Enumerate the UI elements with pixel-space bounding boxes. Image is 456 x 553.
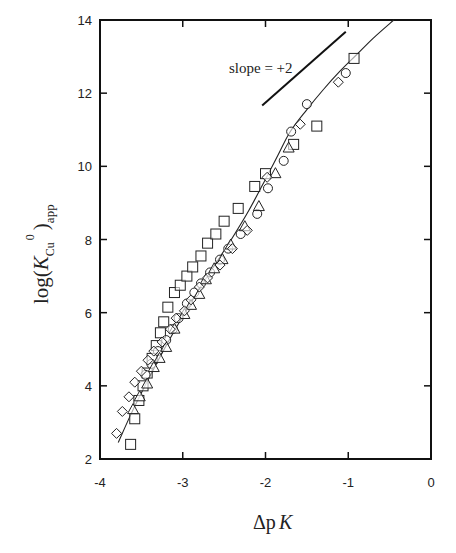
slope-annotation: slope = +2	[229, 60, 293, 76]
x-tick-label: -1	[342, 475, 354, 490]
circle-marker	[263, 184, 272, 193]
plot-border	[100, 20, 431, 459]
x-tick-label: -3	[177, 475, 189, 490]
chart-canvas: -4-3-2-102468101214 slope = +2 ΔpK log(K…	[0, 0, 456, 553]
y-axis-sub: Cu	[43, 242, 57, 256]
square-marker	[159, 317, 169, 327]
diamond-marker	[117, 406, 127, 416]
x-tick-label: 0	[427, 475, 434, 490]
y-tick-label: 2	[85, 452, 92, 467]
triangle-marker	[253, 201, 264, 211]
svg-text:ΔpK: ΔpK	[253, 511, 294, 534]
circle-marker	[287, 127, 296, 136]
circle-marker	[302, 100, 311, 109]
diamond-marker	[112, 428, 122, 438]
x-axis-title-k: K	[278, 511, 294, 533]
plot-frame	[100, 20, 431, 459]
square-marker	[126, 439, 136, 449]
y-axis-log: log(	[29, 270, 53, 304]
y-tick-label: 6	[85, 306, 92, 321]
axis-ticks	[100, 20, 431, 459]
y-tick-label: 14	[78, 13, 92, 28]
square-marker	[349, 53, 359, 63]
square-marker	[182, 271, 192, 281]
fit-curve	[118, 20, 394, 443]
square-marker	[188, 262, 198, 272]
square-marker	[250, 181, 260, 191]
svg-text:log(KCu0)app: log(KCu0)app	[23, 204, 57, 304]
y-tick-label: 12	[78, 86, 92, 101]
x-axis-title: ΔpK	[253, 511, 294, 534]
square-marker	[233, 203, 243, 213]
square-marker	[219, 216, 229, 226]
x-axis-title-delta-p: Δp	[253, 511, 276, 534]
y-tick-label: 10	[78, 159, 92, 174]
y-axis-k: K	[29, 255, 53, 271]
circle-marker	[341, 69, 350, 78]
diamond-marker	[124, 392, 134, 402]
y-axis-app: app	[42, 204, 57, 223]
x-tick-label: -4	[94, 475, 106, 490]
square-marker	[163, 302, 173, 312]
diamond-marker	[333, 77, 343, 87]
diamond-marker	[295, 119, 305, 129]
y-tick-label: 8	[85, 233, 92, 248]
square-marker	[203, 238, 213, 248]
square-marker	[211, 229, 221, 239]
data-markers	[112, 53, 359, 449]
circle-marker	[279, 156, 288, 165]
square-marker	[196, 251, 206, 261]
fit-curve-path	[118, 20, 394, 443]
y-axis-close: )	[29, 223, 53, 230]
y-axis-title: log(KCu0)app	[23, 204, 57, 304]
square-marker	[130, 414, 140, 424]
x-tick-label: -2	[260, 475, 272, 490]
square-marker	[312, 121, 322, 131]
y-tick-label: 4	[85, 379, 92, 394]
series-squares	[126, 53, 359, 449]
y-axis-sup: 0	[23, 234, 37, 240]
square-marker	[175, 280, 185, 290]
